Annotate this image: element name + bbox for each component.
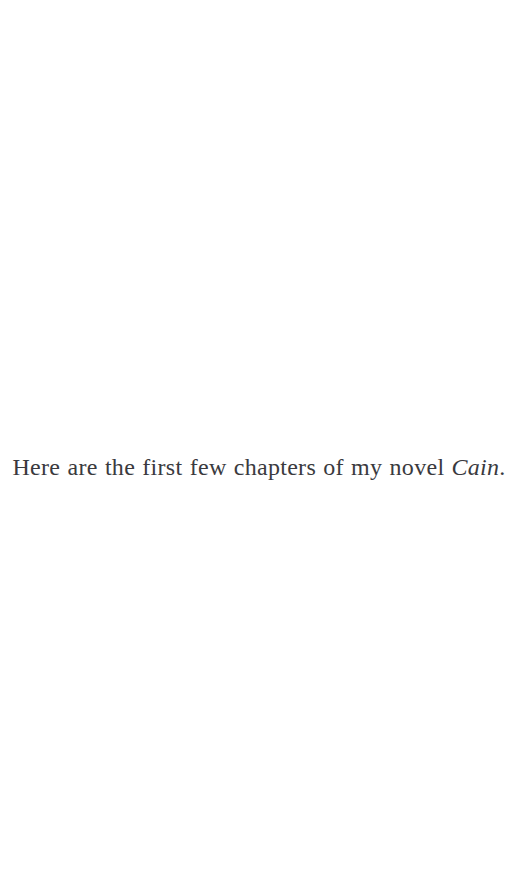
body-paragraph: Here are the first few chapters of my no…	[0, 452, 518, 482]
document-page: Here are the first few chapters of my no…	[0, 0, 518, 869]
sentence-period: .	[499, 454, 505, 480]
paragraph-lead-text: Here are the first few chapters of my no…	[12, 454, 451, 480]
novel-title-italic: Cain	[452, 454, 500, 480]
